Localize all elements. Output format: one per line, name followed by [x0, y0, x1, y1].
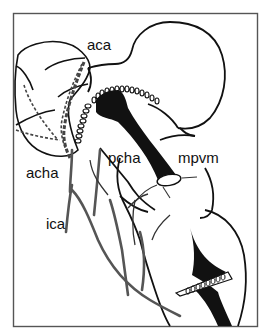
- acha-dashed-thick: [64, 62, 84, 158]
- label-ica: ica: [46, 215, 66, 232]
- label-pcha: pcha: [108, 149, 141, 166]
- label-acha: acha: [26, 164, 59, 181]
- pituitary-stalk-black: [96, 90, 176, 181]
- coil-vessel-left: [75, 104, 91, 143]
- label-mpvm: mpvm: [178, 149, 219, 166]
- label-aca: aca: [87, 36, 112, 53]
- diagram-canvas: aca acha ica pcha mpvm: [0, 0, 267, 336]
